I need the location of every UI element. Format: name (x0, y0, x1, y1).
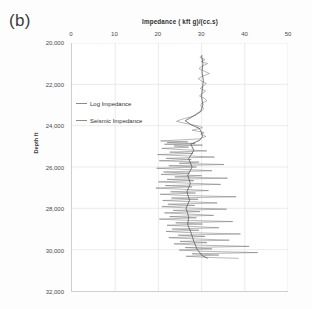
x-tick-label: 30 (198, 31, 205, 37)
legend-label: Log Impedance (90, 100, 131, 108)
legend-item: Log Impedance (76, 100, 156, 108)
legend-item: Seismic Impedance (76, 117, 156, 125)
x-tick-label: 50 (285, 31, 292, 37)
line-swatch-icon (76, 103, 87, 104)
x-axis-tick-labels: 01020304050 (71, 31, 288, 41)
x-tick-label: 20 (154, 31, 161, 37)
panel-label: (b) (9, 11, 31, 31)
y-axis-title: Depth ft (33, 132, 39, 153)
legend: Log ImpedanceSeismic Impedance (76, 100, 156, 134)
y-tick-label: 32,000 (46, 289, 64, 295)
y-tick-label: 20,000 (46, 40, 64, 46)
line-swatch-icon (76, 120, 87, 121)
y-tick-label: 22,000 (46, 82, 64, 88)
plot-area (71, 43, 288, 292)
series-line (156, 55, 258, 258)
figure-panel: (b) Impedance ( kft g)/(cc.s) 0102030405… (0, 0, 312, 309)
y-tick-label: 30,000 (46, 248, 64, 254)
y-tick-label: 28,000 (46, 206, 64, 212)
y-axis-tick-labels: 20,00022,00024,00026,00028,00030,00032,0… (0, 41, 68, 296)
chart-title: Impedance ( kft g)/(cc.s) (71, 18, 289, 25)
data-curves (72, 43, 288, 291)
y-tick-label: 26,000 (46, 165, 64, 171)
legend-label: Seismic Impedance (90, 117, 142, 125)
x-tick-label: 0 (69, 31, 72, 37)
y-tick-label: 24,000 (46, 123, 64, 129)
x-tick-label: 40 (241, 31, 248, 37)
x-tick-label: 10 (111, 31, 118, 37)
